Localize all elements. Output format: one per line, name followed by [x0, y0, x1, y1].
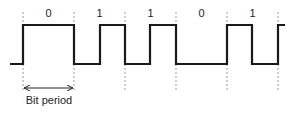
bit-label: 0 [45, 7, 51, 19]
bit-label: 1 [147, 7, 153, 19]
bit-period-label: Bit period [26, 94, 72, 106]
bit-label: 1 [96, 7, 102, 19]
bit-label: 0 [198, 7, 204, 19]
bit-label: 1 [249, 7, 255, 19]
waveform-diagram: 0 1 1 0 1 Bit period [0, 0, 291, 113]
signal-waveform [10, 25, 285, 64]
